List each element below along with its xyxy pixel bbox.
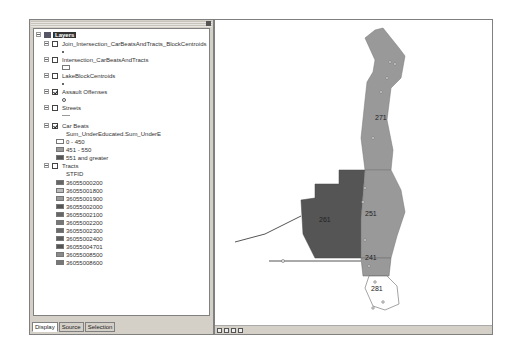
point-symbol-icon — [62, 51, 64, 53]
collapse-icon[interactable] — [44, 105, 49, 110]
layer-visibility-checkbox[interactable] — [52, 57, 58, 63]
circle-symbol-icon — [62, 98, 66, 102]
legend-swatch — [56, 212, 64, 217]
layout-view-button[interactable] — [224, 328, 229, 333]
legend-swatch — [56, 228, 64, 233]
legend-swatch — [56, 180, 64, 185]
map-view-toolbar — [215, 325, 492, 334]
map-canvas[interactable] — [215, 20, 492, 326]
toc-tabs: Display Source Selection — [32, 322, 115, 332]
expand-icon[interactable] — [44, 163, 49, 168]
refresh-icon[interactable] — [231, 328, 236, 333]
legend-swatch — [56, 139, 64, 144]
legend-swatch — [56, 147, 64, 152]
legend-swatch — [56, 220, 64, 225]
polygon-symbol-icon — [62, 65, 70, 70]
beat-label-271: 271 — [375, 114, 387, 121]
collapse-icon[interactable] — [44, 123, 49, 128]
collapse-icon[interactable] — [44, 41, 49, 46]
tab-source[interactable]: Source — [59, 322, 84, 332]
layer-lake-block-centroids[interactable]: LakeBlockCentroids — [44, 71, 115, 80]
legend-swatch — [56, 204, 64, 209]
layer-visibility-checkbox[interactable] — [52, 105, 58, 111]
pause-drawing-button[interactable] — [238, 328, 243, 333]
layer-assault-offenses[interactable]: Assault Offenses — [44, 87, 107, 96]
layer-tree: Layers Join_Intersection_CarBeatsAndTrac… — [33, 28, 210, 316]
collapse-icon[interactable] — [36, 32, 41, 37]
layer-intersection[interactable]: Intersection_CarBeatsAndTracts — [44, 55, 148, 64]
layers-icon — [44, 32, 51, 38]
layers-root[interactable]: Layers — [36, 30, 76, 39]
layer-visibility-checkbox[interactable] — [52, 123, 58, 129]
legend-swatch — [56, 260, 64, 265]
tab-display[interactable]: Display — [32, 322, 58, 332]
collapse-icon[interactable] — [44, 57, 49, 62]
map-view[interactable]: 271 261 251 241 281 — [214, 19, 493, 335]
legend-swatch — [56, 188, 64, 193]
data-view-button[interactable] — [217, 328, 222, 333]
toc-titlebar[interactable] — [31, 21, 212, 27]
layer-join-intersection[interactable]: Join_Intersection_CarBeatsAndTracts_Bloc… — [44, 39, 207, 48]
line-symbol-icon — [62, 115, 70, 116]
legend-swatch — [56, 196, 64, 201]
tab-selection[interactable]: Selection — [85, 322, 116, 332]
collapse-icon[interactable] — [44, 89, 49, 94]
legend-swatch — [56, 155, 64, 160]
legend-swatch — [56, 252, 64, 257]
beat-label-241: 241 — [365, 254, 377, 261]
legend-swatch — [56, 236, 64, 241]
layer-visibility-checkbox[interactable] — [52, 89, 58, 95]
collapse-icon[interactable] — [44, 73, 49, 78]
legend-field: STFID — [66, 169, 83, 178]
table-of-contents-panel: Layers Join_Intersection_CarBeatsAndTrac… — [29, 19, 214, 335]
beat-label-251: 251 — [365, 210, 377, 217]
point-symbol-icon — [62, 83, 64, 85]
legend-swatch — [56, 244, 64, 249]
beat-label-281: 281 — [371, 285, 383, 292]
close-icon[interactable] — [206, 21, 211, 26]
legend-class: 36055008600 — [56, 258, 103, 267]
layer-visibility-checkbox[interactable] — [52, 73, 58, 79]
layer-visibility-checkbox[interactable] — [52, 41, 58, 47]
layer-visibility-checkbox[interactable] — [52, 163, 58, 169]
beat-label-261: 261 — [319, 216, 331, 223]
